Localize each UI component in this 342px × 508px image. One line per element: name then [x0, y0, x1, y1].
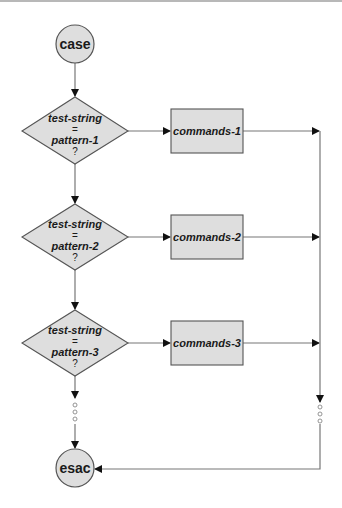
decision-2-line-1: test-string: [48, 218, 102, 230]
case-flowchart: case test-string = pattern-1 ? test-stri…: [0, 0, 342, 508]
decision-3-line-4: ?: [72, 358, 78, 369]
action-node-3: commands-3: [171, 321, 243, 365]
decision-2-line-4: ?: [72, 252, 78, 263]
action-3-label: commands-3: [173, 337, 241, 349]
action-1-label: commands-1: [173, 125, 241, 137]
action-2-label: commands-2: [173, 231, 241, 243]
action-node-1: commands-1: [171, 109, 243, 153]
decision-1-line-3: pattern-1: [50, 134, 98, 146]
action-node-2: commands-2: [171, 215, 243, 259]
start-node-case: case: [56, 25, 94, 63]
ellipsis-right: [318, 405, 322, 423]
merge-line-to-esac: [95, 424, 320, 469]
decision-2-line-3: pattern-2: [50, 240, 98, 252]
decision-1-line-4: ?: [72, 146, 78, 157]
decision-node-2: test-string = pattern-2 ?: [22, 204, 128, 270]
ellipsis-left: [73, 403, 77, 421]
end-node-esac: esac: [56, 449, 94, 487]
decision-3-line-3: pattern-3: [50, 346, 98, 358]
start-label: case: [59, 36, 90, 52]
end-label: esac: [59, 460, 90, 476]
decision-3-line-1: test-string: [48, 324, 102, 336]
decision-1-line-1: test-string: [48, 112, 102, 124]
decision-node-3: test-string = pattern-3 ?: [22, 310, 128, 376]
decision-node-1: test-string = pattern-1 ?: [22, 97, 128, 164]
